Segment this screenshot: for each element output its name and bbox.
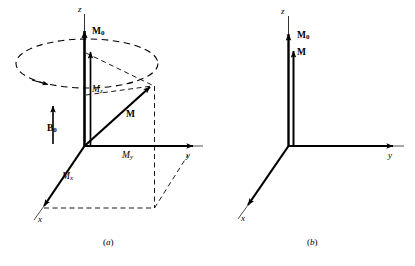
panel-a-m0-label: M0: [92, 27, 104, 37]
my-component-label: My: [122, 151, 133, 161]
panel-b-x-axis-label: x: [241, 214, 245, 223]
panel-b-m0-label: M0: [297, 31, 309, 41]
panel-a-x-axis-label: x: [38, 215, 42, 224]
panel-a-caption: (a): [103, 238, 114, 247]
precession-ellipse: [16, 39, 158, 88]
panel-a-graphics: [16, 14, 203, 220]
panel-b-caption: (b): [307, 238, 318, 247]
precession-direction-arrow: [32, 80, 48, 85]
panel-b-m0-label-main: M: [297, 30, 306, 40]
panel-b-x-axis: [248, 146, 289, 205]
mz-component-label-main: M: [92, 84, 100, 94]
panel-b-caption-close: ): [315, 237, 318, 247]
panel-b-m-label: M: [297, 48, 306, 58]
mz-component-label-sub: z: [100, 87, 103, 95]
mx-component-label: Mx: [62, 172, 73, 182]
projection-box-diagonal-dashed: [155, 155, 189, 208]
panel-a-m-label: M: [126, 110, 135, 120]
panel-b-z-axis-label: z: [281, 7, 285, 16]
panel-b-graphics: [238, 16, 404, 219]
panel-a-m0-label-main: M: [92, 26, 101, 36]
panel-b-y-axis-label: y: [388, 151, 392, 160]
diagram-svg: [0, 0, 415, 266]
panel-a-m0-label-sub: 0: [101, 29, 105, 37]
panel-a-z-axis-label: z: [78, 5, 82, 14]
mx-component-label-sub: x: [70, 174, 73, 182]
b0-field-label: B0: [47, 124, 57, 134]
figure-container: z M0 Mz M B0 My y Mx x (a) z M0 M y x (b…: [0, 0, 415, 266]
m-vector-a: [85, 87, 151, 146]
panel-a-caption-close: ): [111, 237, 114, 247]
my-component-label-main: M: [122, 150, 130, 160]
my-component-label-sub: y: [130, 153, 133, 161]
cone-radius-dashed-upper: [86, 53, 152, 85]
b0-field-label-sub: 0: [53, 126, 57, 134]
mx-component-label-main: M: [62, 171, 70, 181]
panel-a-y-axis-label: y: [186, 151, 190, 160]
mz-component-label: Mz: [92, 85, 103, 95]
panel-b-m0-label-sub: 0: [306, 33, 310, 41]
